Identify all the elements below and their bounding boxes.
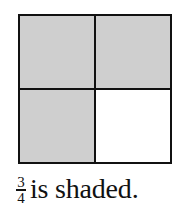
grid-cell-top-left-shaded bbox=[20, 16, 94, 88]
grid-cell-top-right-shaded bbox=[96, 16, 170, 88]
fraction-denominator: 4 bbox=[16, 191, 26, 205]
caption-text: is shaded. bbox=[30, 173, 138, 205]
fraction-grid bbox=[18, 14, 172, 164]
caption: 3 4 is shaded. bbox=[16, 171, 138, 207]
fraction-numerator: 3 bbox=[16, 175, 26, 189]
grid-cell-bottom-right-unshaded bbox=[96, 90, 170, 162]
grid-cell-bottom-left-shaded bbox=[20, 90, 94, 162]
fraction: 3 4 bbox=[16, 175, 26, 205]
